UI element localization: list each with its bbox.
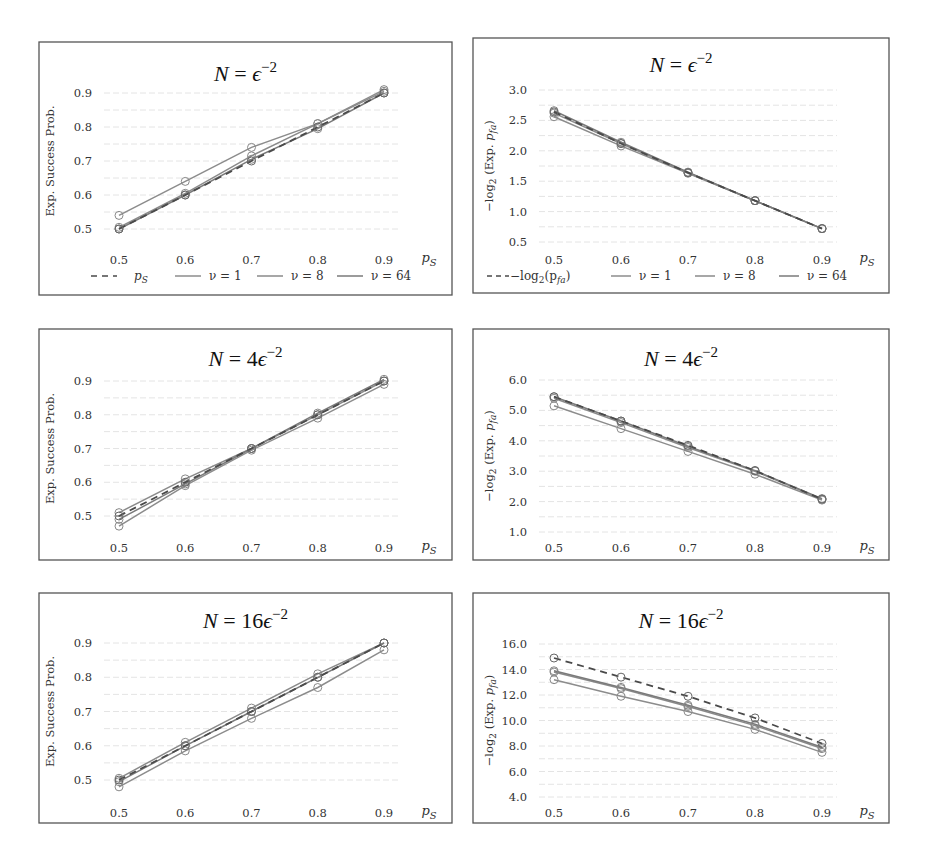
y-tick-label: 1.0: [509, 205, 527, 219]
legend-item-nu: ν = 64: [371, 269, 412, 283]
y-tick-label: 4.0: [509, 434, 527, 448]
chart-pfa-16eps2: N = 16ϵ−24.06.08.010.012.014.016.00.50.6…: [473, 593, 889, 823]
x-tick-label: 0.9: [813, 806, 831, 820]
y-tick-label: 5.0: [509, 403, 527, 417]
y-tick-label: 0.9: [74, 86, 92, 100]
chart-success-eps2: N = ϵ−20.50.60.70.80.90.50.60.70.80.9pSE…: [39, 42, 452, 295]
y-axis-label: Exp. Success Prob.: [43, 656, 57, 767]
x-tick-label: 0.7: [679, 541, 697, 555]
y-tick-label: 0.9: [74, 374, 92, 388]
x-tick-label: 0.8: [309, 253, 327, 267]
legend-item-nu: ν = 8: [723, 269, 756, 283]
x-tick-label: 0.7: [679, 253, 697, 267]
x-tick-label: 0.8: [746, 541, 764, 555]
legend-item-nu: ν = 1: [639, 269, 672, 283]
x-tick-label: 0.9: [813, 541, 831, 555]
x-tick-label: 0.6: [612, 541, 630, 555]
legend-item-nu: ν = 8: [291, 269, 324, 283]
x-tick-label: 0.6: [176, 806, 194, 820]
legend-item-nu: ν = 64: [807, 269, 848, 283]
y-axis-label: Exp. Success Prob.: [43, 393, 57, 504]
legend-item-nu: ν = 1: [209, 269, 242, 283]
x-tick-label: 0.7: [679, 806, 697, 820]
y-tick-label: 0.7: [74, 442, 92, 456]
y-tick-label: 0.7: [74, 705, 92, 719]
y-tick-label: 3.0: [509, 464, 527, 478]
x-tick-label: 0.8: [746, 806, 764, 820]
y-tick-label: 10.0: [501, 714, 527, 728]
y-axis-label: −log2 (Exp. pfa): [482, 410, 498, 502]
x-tick-label: 0.8: [309, 806, 327, 820]
y-tick-label: 1.0: [509, 525, 527, 539]
x-tick-label: 0.8: [309, 541, 327, 555]
chart-pfa-4eps2: N = 4ϵ−21.02.03.04.05.06.00.50.60.70.80.…: [473, 329, 889, 560]
x-tick-label: 0.5: [110, 806, 128, 820]
y-tick-label: 0.5: [74, 222, 92, 236]
x-tick-label: 0.5: [110, 541, 128, 555]
x-tick-label: 0.5: [110, 253, 128, 267]
x-tick-label: 0.5: [545, 541, 563, 555]
figure-svg: N = ϵ−20.50.60.70.80.90.50.60.70.80.9pSE…: [0, 0, 925, 863]
x-tick-label: 0.5: [545, 253, 563, 267]
y-tick-label: 0.8: [74, 408, 92, 422]
chart-pfa-eps2: N = ϵ−20.51.01.52.02.53.00.50.60.70.80.9…: [473, 38, 889, 293]
chart-success-4eps2: N = 4ϵ−20.50.60.70.80.90.50.60.70.80.9pS…: [39, 329, 452, 560]
chart-success-16eps2: N = 16ϵ−20.50.60.70.80.90.50.60.70.80.9p…: [39, 593, 452, 823]
y-tick-label: 0.9: [74, 636, 92, 650]
x-tick-label: 0.5: [545, 806, 563, 820]
y-axis-label: −log2 (Exp. pfa): [482, 675, 498, 767]
y-tick-label: 3.0: [509, 83, 527, 97]
y-tick-label: 0.6: [74, 475, 92, 489]
y-tick-label: 0.6: [74, 739, 92, 753]
y-tick-label: 6.0: [509, 373, 527, 387]
y-tick-label: 2.0: [509, 495, 527, 509]
y-tick-label: 0.5: [74, 773, 92, 787]
x-tick-label: 0.9: [813, 253, 831, 267]
y-tick-label: 0.8: [74, 670, 92, 684]
x-tick-label: 0.6: [612, 806, 630, 820]
x-tick-label: 0.7: [242, 806, 260, 820]
y-tick-label: 0.5: [509, 235, 527, 249]
x-tick-label: 0.9: [375, 541, 393, 555]
y-tick-label: 8.0: [509, 739, 527, 753]
y-tick-label: 6.0: [509, 765, 527, 779]
y-tick-label: 0.5: [74, 509, 92, 523]
x-tick-label: 0.9: [375, 253, 393, 267]
y-axis-label: Exp. Success Prob.: [43, 105, 57, 216]
x-tick-label: 0.8: [746, 253, 764, 267]
y-tick-label: 12.0: [501, 688, 527, 702]
y-axis-label: −log2 (Exp. pfa): [482, 120, 498, 212]
y-tick-label: 4.0: [509, 790, 527, 804]
x-tick-label: 0.7: [242, 253, 260, 267]
x-tick-label: 0.9: [375, 806, 393, 820]
y-tick-label: 16.0: [501, 637, 527, 651]
x-tick-label: 0.6: [176, 541, 194, 555]
y-tick-label: 0.6: [74, 188, 92, 202]
y-tick-label: 2.5: [509, 113, 527, 127]
x-tick-label: 0.6: [176, 253, 194, 267]
x-tick-label: 0.7: [242, 541, 260, 555]
y-tick-label: 1.5: [509, 174, 527, 188]
y-tick-label: 2.0: [509, 144, 527, 158]
x-tick-label: 0.6: [612, 253, 630, 267]
y-tick-label: 0.7: [74, 154, 92, 168]
y-tick-label: 0.8: [74, 120, 92, 134]
y-tick-label: 14.0: [501, 663, 527, 677]
